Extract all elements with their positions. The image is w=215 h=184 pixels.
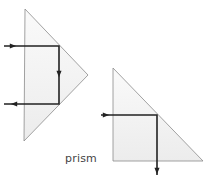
prism-90-degree-deflector — [101, 68, 203, 175]
arrow-head-left-icon — [11, 101, 17, 106]
prism-retroreflector — [4, 9, 88, 141]
prism-label: prism — [65, 152, 97, 165]
prism-1-triangle — [24, 9, 88, 141]
arrow-head-down-icon — [154, 168, 159, 174]
diagram-svg — [0, 0, 215, 184]
arrow-head-right-icon — [103, 112, 109, 117]
arrow-head-right-icon — [10, 43, 16, 48]
prism-diagram: prism — [0, 0, 215, 184]
